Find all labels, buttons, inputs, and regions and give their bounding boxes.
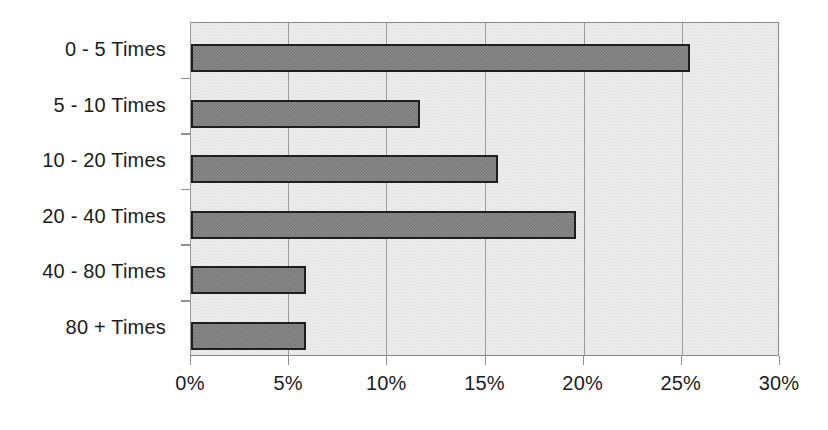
category-label-0: 0 - 5 Times: [65, 22, 166, 78]
bar-1: [191, 100, 420, 128]
bar-3: [191, 211, 576, 239]
x-axis-tick: [779, 356, 780, 365]
category-axis: 0 - 5 Times 5 - 10 Times 10 - 20 Times 2…: [0, 22, 178, 356]
x-axis-label-5: 25%: [636, 372, 726, 395]
x-axis-tick: [190, 356, 191, 365]
category-label-1: 5 - 10 Times: [54, 78, 166, 134]
bar-4: [191, 266, 306, 294]
x-axis-label-3: 15%: [440, 372, 530, 395]
y-axis-tick: [181, 300, 190, 302]
x-axis-tick: [288, 356, 289, 365]
x-axis-tick: [681, 356, 682, 365]
bar-chart: 0 - 5 Times 5 - 10 Times 10 - 20 Times 2…: [0, 0, 828, 430]
gridline-25: [682, 23, 683, 355]
y-axis-tick: [181, 78, 190, 80]
bar-5: [191, 322, 306, 350]
y-axis-tick: [181, 133, 190, 135]
bar-0: [191, 44, 690, 72]
x-axis-tick: [583, 356, 584, 365]
x-axis-label-4: 20%: [538, 372, 628, 395]
x-axis-tick: [485, 356, 486, 365]
x-axis-label-0: 0%: [145, 372, 235, 395]
gridline-20: [584, 23, 585, 355]
gridline-10: [386, 23, 387, 355]
bar-2: [191, 155, 498, 183]
category-label-2: 10 - 20 Times: [42, 133, 166, 189]
gridline-15: [485, 23, 486, 355]
x-axis-label-6: 30%: [734, 372, 824, 395]
y-axis-tick: [181, 244, 190, 246]
x-axis-label-1: 5%: [243, 372, 333, 395]
category-label-3: 20 - 40 Times: [42, 189, 166, 245]
category-label-5: 80 + Times: [66, 300, 166, 356]
category-label-4: 40 - 80 Times: [42, 244, 166, 300]
plot-area: [190, 22, 779, 356]
gridline-5: [288, 23, 289, 355]
x-axis-tick: [386, 356, 387, 365]
y-axis-tick: [181, 189, 190, 191]
x-axis-label-2: 10%: [341, 372, 431, 395]
